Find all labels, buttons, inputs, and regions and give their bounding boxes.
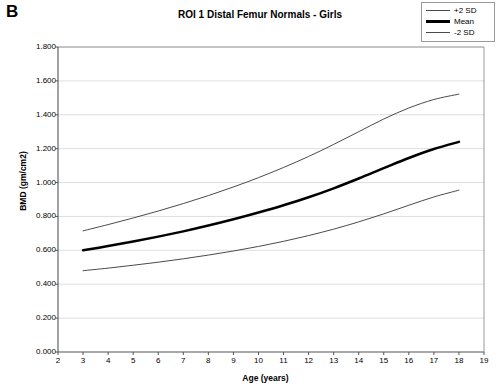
series-line-mean [83,142,459,250]
figure-panel: B ROI 1 Distal Femur Normals - Girls +2 … [0,0,500,389]
line-chart-plot-area [0,0,500,389]
series-line-2-sd [83,190,459,270]
